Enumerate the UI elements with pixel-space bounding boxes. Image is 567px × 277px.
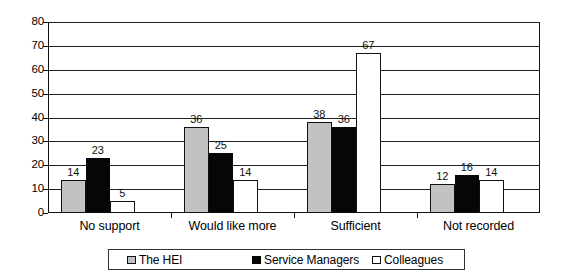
legend-item: Colleagues xyxy=(372,253,443,267)
y-axis-tick-label: 0 xyxy=(14,207,44,219)
legend-label: Service Managers xyxy=(264,254,359,267)
bar-chart: 01020304050607080 1423536251438366712161… xyxy=(0,0,567,277)
bar-group xyxy=(417,22,540,213)
x-axis-separator xyxy=(417,213,418,218)
legend-label: Colleagues xyxy=(384,254,443,267)
y-axis-tick-label: 40 xyxy=(14,112,44,124)
bar xyxy=(110,201,135,213)
bar xyxy=(61,180,86,213)
bar xyxy=(307,122,332,213)
y-axis-tick-label: 50 xyxy=(14,88,44,100)
y-axis-tick xyxy=(43,213,48,214)
y-axis-tick-label: 60 xyxy=(14,64,44,76)
black-swatch-icon xyxy=(252,256,261,264)
y-axis-tick-label: 70 xyxy=(14,40,44,52)
y-axis-tick-label: 80 xyxy=(14,16,44,28)
y-axis-tick-label: 20 xyxy=(14,159,44,171)
legend: The HEIService ManagersColleagues xyxy=(108,249,465,270)
x-axis-category-label: Sufficient xyxy=(294,219,417,233)
legend-item: Service Managers xyxy=(252,253,359,267)
bar xyxy=(332,127,357,213)
bar xyxy=(184,127,209,213)
white-swatch-icon xyxy=(372,256,381,264)
gray-swatch-icon xyxy=(127,256,136,264)
y-axis-tick-label: 10 xyxy=(14,183,44,195)
legend-item: The HEI xyxy=(127,253,182,267)
bar xyxy=(430,184,455,213)
bar-group xyxy=(48,22,171,213)
y-axis-tick-label: 30 xyxy=(14,135,44,147)
x-axis-category-label: Would like more xyxy=(171,219,294,233)
bar xyxy=(479,180,504,213)
bar-value-label: 67 xyxy=(350,40,387,51)
bar xyxy=(233,180,258,213)
bar xyxy=(86,158,111,213)
bar-value-label: 23 xyxy=(80,145,117,156)
x-axis-separator xyxy=(171,213,172,218)
x-axis-separator xyxy=(294,213,295,218)
bars-layer xyxy=(48,22,540,213)
bar xyxy=(356,53,381,213)
bar xyxy=(455,175,480,213)
legend-label: The HEI xyxy=(139,254,182,267)
x-axis-category-label: Not recorded xyxy=(417,219,540,233)
x-axis-category-label: No support xyxy=(48,219,171,233)
bar-value-label: 36 xyxy=(178,114,215,125)
bar xyxy=(209,153,234,213)
